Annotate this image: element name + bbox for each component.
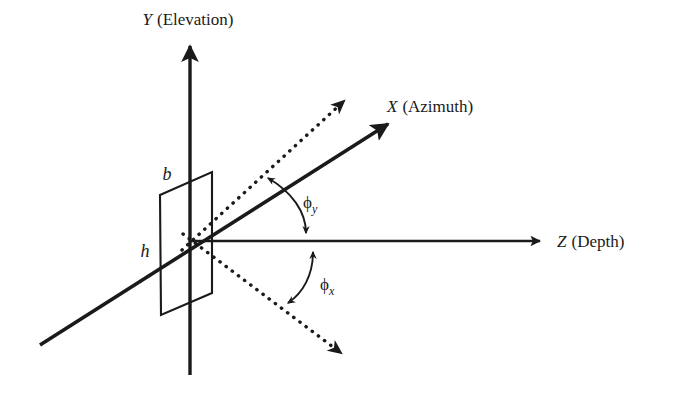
image-plane-outline (160, 172, 212, 315)
x-axis-name: (Azimuth) (402, 97, 473, 116)
phi-x-symbol: ϕ (320, 275, 329, 294)
z-axis-label: Z(Depth) (557, 232, 624, 251)
dotted-lower-ray (183, 234, 341, 353)
phi-x-subscript: x (328, 284, 335, 298)
phi-x-arc-path (288, 252, 313, 303)
x-axis-line (40, 124, 388, 345)
plane-width-label: b (163, 164, 172, 184)
coordinate-system-diagram: Y(Elevation) X(Azimuth) Z(Depth) b h ϕy … (0, 0, 679, 395)
image-plane (160, 172, 212, 315)
plane-height-label: h (141, 241, 150, 261)
x-axis-label: X(Azimuth) (386, 97, 473, 116)
phi-x-label: ϕx (320, 275, 335, 298)
phi-y-label: ϕy (303, 193, 318, 216)
z-axis-symbol: Z (557, 232, 567, 251)
y-axis-label: Y(Elevation) (143, 10, 234, 29)
dotted-lower-ray-shaft (183, 234, 341, 353)
diagram-canvas: Y(Elevation) X(Azimuth) Z(Depth) b h ϕy … (0, 0, 679, 395)
y-axis-name: (Elevation) (157, 10, 233, 29)
phi-y-subscript: y (311, 202, 318, 216)
phi-y-symbol: ϕ (303, 193, 312, 212)
z-axis-name: (Depth) (571, 232, 624, 251)
x-axis-shaft (40, 124, 388, 345)
phi-x-angle-arc (288, 252, 313, 303)
x-axis-symbol: X (386, 97, 398, 116)
y-axis-symbol: Y (143, 10, 154, 29)
